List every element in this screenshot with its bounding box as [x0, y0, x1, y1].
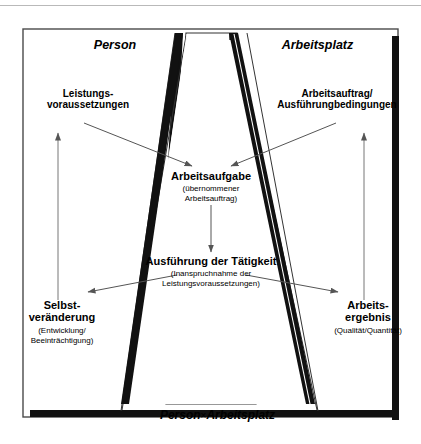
- node-arbeitsaufgabe-subtitle: (übernommener Arbeitsauftrag): [151, 184, 271, 203]
- node-ausfuehrung-title: Ausführung der Tätigkeit: [125, 255, 297, 267]
- bottom-caption-arbeitsplatz: Arbeitsplatz: [206, 408, 275, 422]
- bottom-caption: Person×Arbeitsplatz: [120, 396, 315, 423]
- node-selbstveraenderung-title: Selbst- veränderung: [14, 299, 110, 324]
- bottom-caption-person: Person: [160, 408, 201, 422]
- diagram-canvas: [0, 0, 421, 444]
- node-arbeitsergebnis-subtitle: (Qualität/Quantität): [318, 326, 418, 336]
- node-selbstveraenderung-subtitle: (Entwicklung/ Beeinträchtigung): [14, 326, 110, 345]
- diagram-page: Person Arbeitsplatz Leistungs- vorausset…: [0, 0, 421, 444]
- zone-title-arbeitsplatz: Arbeitsplatz: [255, 38, 380, 52]
- node-arbeitsergebnis-title: Arbeits- ergebnis: [322, 299, 414, 324]
- node-arbeitsaufgabe-title: Arbeitsaufgabe: [151, 170, 271, 182]
- node-ausfuehrung-subtitle: (Inanspruchnahme der Leistungsvoraussetz…: [125, 269, 297, 288]
- node-arbeitsauftrag: Arbeitsauftrag/ Ausführungbedingungen: [258, 88, 416, 110]
- zone-title-person: Person: [60, 38, 170, 52]
- node-leistungsvoraussetzungen: Leistungs- voraussetzungen: [18, 88, 158, 110]
